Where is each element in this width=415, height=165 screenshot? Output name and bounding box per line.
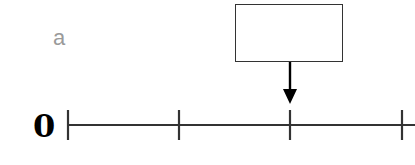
arrow-down-icon: [283, 62, 297, 104]
number-line-diagram: [0, 0, 415, 165]
